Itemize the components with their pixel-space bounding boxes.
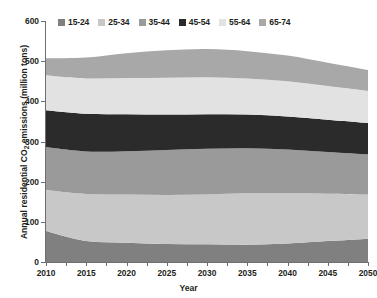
y-tick-label: 600 bbox=[25, 16, 39, 26]
x-tick-label: 2035 bbox=[238, 268, 257, 278]
x-tick-mark bbox=[207, 262, 208, 266]
stacked-area-series bbox=[46, 21, 368, 262]
x-tick-label: 2045 bbox=[318, 268, 337, 278]
x-tick-mark bbox=[167, 262, 168, 266]
y-tick-mark bbox=[41, 182, 45, 183]
y-tick-label: 400 bbox=[25, 96, 39, 106]
x-tick-mark bbox=[247, 262, 248, 266]
y-axis-ticks: 0100200300400500600 bbox=[0, 0, 45, 263]
x-tick-mark bbox=[66, 262, 67, 266]
x-axis-title: Year bbox=[0, 283, 377, 293]
x-tick-label: 2020 bbox=[117, 268, 136, 278]
chart-container: 15-2425-3435-4445-5455-6465-74 Annual re… bbox=[0, 0, 377, 298]
y-tick-mark bbox=[41, 21, 45, 22]
x-tick-mark bbox=[288, 262, 289, 266]
x-tick-mark bbox=[267, 262, 268, 266]
area-band-35-44 bbox=[46, 147, 368, 195]
x-tick-label: 2015 bbox=[77, 268, 96, 278]
x-tick-mark bbox=[187, 262, 188, 266]
x-tick-label: 2050 bbox=[359, 268, 377, 278]
x-tick-mark bbox=[328, 262, 329, 266]
x-tick-label: 2030 bbox=[198, 268, 217, 278]
x-tick-mark bbox=[368, 262, 369, 266]
y-tick-label: 300 bbox=[25, 137, 39, 147]
plot-area bbox=[46, 21, 368, 262]
x-tick-label: 2010 bbox=[37, 268, 56, 278]
x-tick-mark bbox=[147, 262, 148, 266]
x-tick-mark bbox=[106, 262, 107, 266]
x-tick-mark bbox=[348, 262, 349, 266]
area-band-25-34 bbox=[46, 190, 368, 245]
x-tick-mark bbox=[308, 262, 309, 266]
y-tick-mark bbox=[41, 262, 45, 263]
y-tick-label: 0 bbox=[34, 257, 39, 267]
x-tick-mark bbox=[86, 262, 87, 266]
y-tick-label: 500 bbox=[25, 56, 39, 66]
area-chart-svg bbox=[46, 21, 368, 262]
x-tick-label: 2040 bbox=[278, 268, 297, 278]
y-tick-label: 200 bbox=[25, 177, 39, 187]
x-tick-mark bbox=[46, 262, 47, 266]
y-tick-mark bbox=[41, 222, 45, 223]
y-tick-label: 100 bbox=[25, 217, 39, 227]
x-tick-mark bbox=[127, 262, 128, 266]
y-tick-mark bbox=[41, 101, 45, 102]
y-tick-mark bbox=[41, 142, 45, 143]
y-tick-mark bbox=[41, 61, 45, 62]
x-tick-mark bbox=[227, 262, 228, 266]
x-tick-label: 2025 bbox=[157, 268, 176, 278]
